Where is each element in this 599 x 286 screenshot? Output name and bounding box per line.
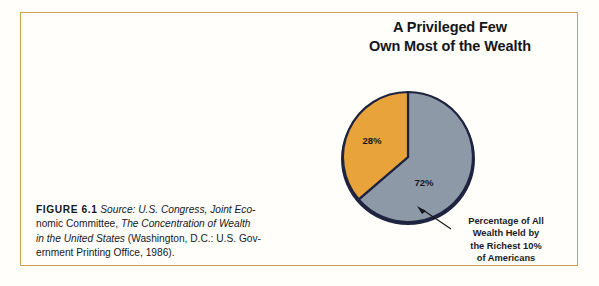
pie-chart-svg: 28% 72%	[338, 88, 480, 228]
caption-line-3: in the United States (Washington, D.C.: …	[36, 232, 308, 246]
caption-text-3: (Washington, D.C.: U.S. Gov-	[125, 233, 261, 244]
caption-line-4: ernment Printing Office, 1986).	[36, 246, 308, 260]
pie-chart: 28% 72%	[338, 88, 480, 228]
chart-title: A Privileged Few Own Most of the Wealth	[330, 18, 570, 55]
annotation-line-2: Wealth Held by	[440, 227, 572, 239]
figure-number: FIGURE 6.1	[36, 204, 97, 215]
figure-page: A Privileged Few Own Most of the Wealth …	[0, 0, 599, 286]
annotation-line-4: of Americans	[440, 252, 572, 264]
annotation-line-1: Percentage of All	[440, 215, 572, 227]
caption-title-part-1: The Concentration of Wealth	[121, 218, 251, 229]
caption-line-1: FIGURE 6.1 Source: U.S. Congress, Joint …	[36, 203, 308, 217]
pie-label-72: 72%	[414, 177, 434, 188]
figure-caption: FIGURE 6.1 Source: U.S. Congress, Joint …	[36, 203, 308, 261]
leader-arrow-icon	[417, 206, 426, 214]
caption-line-2: nomic Committee, The Concentration of We…	[36, 217, 308, 231]
pie-label-28: 28%	[362, 135, 382, 146]
chart-title-line-2: Own Most of the Wealth	[330, 37, 570, 56]
caption-title-part-2: in the United States	[36, 233, 125, 244]
annotation-callout: Percentage of All Wealth Held by the Ric…	[440, 215, 572, 264]
annotation-line-3: the Richest 10%	[440, 240, 572, 252]
chart-title-line-1: A Privileged Few	[330, 18, 570, 37]
caption-source-label: Source: U.S. Congress, Joint Eco-	[97, 204, 255, 215]
caption-text-2: nomic Committee,	[36, 218, 121, 229]
